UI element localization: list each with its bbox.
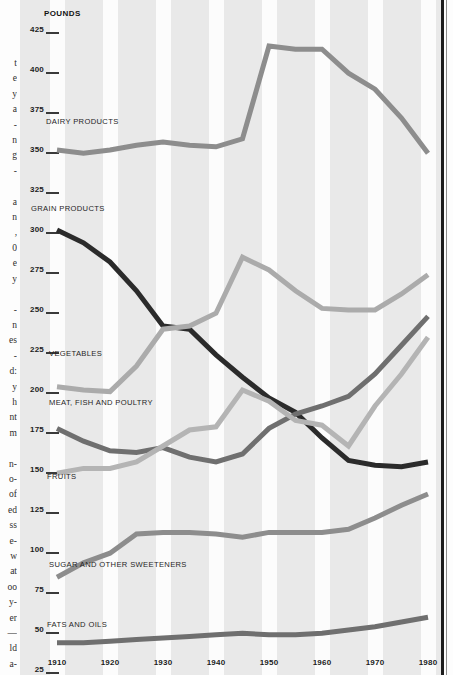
series-line (57, 230, 428, 467)
series-label-dairy: DAIRY PRODUCTS (46, 117, 119, 126)
chart-page: t e y a - n g - a n , 0 e y - n es - d: … (0, 0, 453, 675)
series-label-fruits: FRUITS (47, 472, 77, 481)
series-label-vegetables: VEGETABLES (49, 349, 102, 358)
series-line (57, 617, 428, 643)
series-label-grain: GRAIN PRODUCTS (31, 204, 105, 213)
series-line (57, 257, 428, 391)
series-lines (0, 0, 453, 675)
series-label-fats: FATS AND OILS (47, 620, 107, 629)
series-label-sugar: SUGAR AND OTHER SWEETENERS (49, 560, 187, 569)
series-line (57, 46, 428, 153)
series-label-meat: MEAT, FISH AND POULTRY (49, 398, 153, 407)
